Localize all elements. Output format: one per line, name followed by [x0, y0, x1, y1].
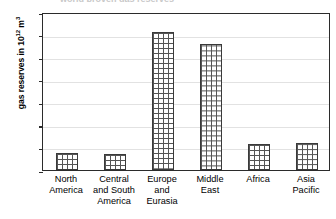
bar	[296, 143, 318, 170]
y-tick-mark	[39, 172, 43, 173]
bar	[200, 44, 222, 170]
x-axis-labels: North AmericaCentral and South AmericaEu…	[42, 174, 330, 219]
bars-layer	[43, 14, 329, 170]
bar	[248, 144, 270, 170]
y-axis-title-base: gas reserves in 10	[16, 36, 26, 109]
bar	[104, 154, 126, 170]
y-axis-title-unit-exponent: 3	[15, 17, 21, 20]
y-axis-title-unit: m	[16, 20, 26, 30]
chart-title-remnant: world proven gas reserves	[60, 0, 210, 2]
x-axis-category-label: Asia Pacific	[278, 174, 334, 196]
bar	[56, 153, 78, 170]
y-axis-title: gas reserves in 1012 m3	[16, 0, 26, 138]
plot-area: 010203040506070	[42, 13, 330, 171]
y-axis-title-exponent: 12	[15, 30, 21, 36]
bar-chart: world proven gas reserves gas reserves i…	[0, 0, 336, 219]
bar	[152, 32, 174, 170]
